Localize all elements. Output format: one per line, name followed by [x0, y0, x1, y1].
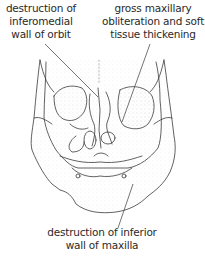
skull-coronal-drawing: [0, 0, 205, 269]
left-maxillary-sinus: [54, 86, 87, 120]
skull-outline: [31, 60, 175, 213]
right-maxillary-sinus: [118, 87, 154, 129]
